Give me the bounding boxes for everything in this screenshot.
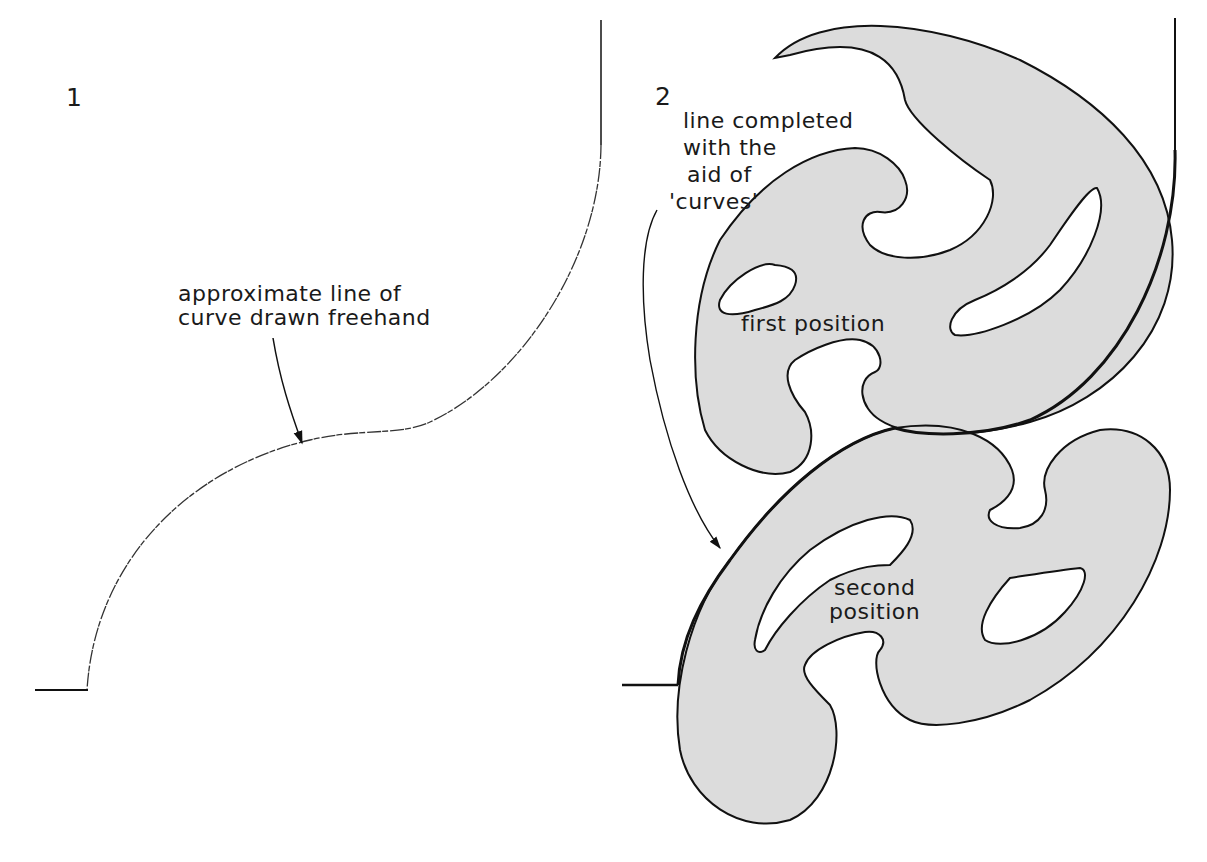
figure-1-number: 1 <box>66 83 82 112</box>
fig2-annotation-line1: line completed <box>683 109 853 133</box>
french-curve-second-position <box>677 426 1170 824</box>
first-position-label: first position <box>741 312 885 336</box>
fig1-freehand-s-curve <box>87 145 601 690</box>
second-position-label-line2: position <box>829 600 920 624</box>
fig1-annotation-line2: curve drawn freehand <box>178 306 431 330</box>
french-curve-first-position <box>695 26 1172 474</box>
fig1-leader-arrow <box>273 338 302 443</box>
second-position-label-line1: second <box>834 576 915 600</box>
fig2-annotation-line2: with the <box>683 136 777 160</box>
figure-2-number: 2 <box>655 82 671 111</box>
diagram-canvas <box>0 0 1207 862</box>
fig2-annotation-line3: aid of <box>687 163 752 187</box>
figure-1-freehand-curve <box>35 20 601 690</box>
fig2-annotation-line4: 'curves' <box>669 190 758 214</box>
fig1-annotation-line1: approximate line of <box>178 282 401 306</box>
